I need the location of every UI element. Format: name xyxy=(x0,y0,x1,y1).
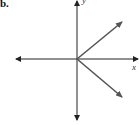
vector-diagram xyxy=(0,0,139,125)
vector-up-right xyxy=(77,22,122,59)
vector-down-right xyxy=(77,59,122,97)
